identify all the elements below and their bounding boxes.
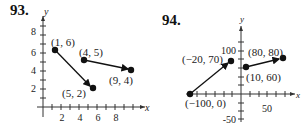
y-axis-label: y <box>43 6 49 17</box>
y-tick-label: 100 <box>221 45 236 56</box>
point-label: (10, 60) <box>246 71 281 84</box>
point-label: (−20, 70) <box>182 53 223 66</box>
x-tick-label: 2 <box>60 112 65 123</box>
x-axis-label: x <box>295 90 300 100</box>
y-tick-label: -50 <box>223 114 236 125</box>
x-tick-label: 8 <box>114 112 119 123</box>
point-label: (4, 5) <box>79 46 103 59</box>
directed-segment <box>84 60 128 69</box>
figure-94: 94. y x 50 100 -50 <box>150 0 307 135</box>
directed-segment <box>190 63 228 94</box>
coordinate-plot-94: y x 50 100 -50 (−100, 0) (−20, 70) (10, … <box>150 0 307 135</box>
point <box>90 85 96 91</box>
x-tick-label: 50 <box>262 103 272 114</box>
point-label: (1, 6) <box>51 36 75 49</box>
y-tick-label: 2 <box>31 83 36 94</box>
point <box>128 67 134 73</box>
x-tick-label: 6 <box>96 112 101 123</box>
point <box>228 58 234 64</box>
point-label: (−100, 0) <box>185 97 226 110</box>
point-label: (5, 2) <box>62 87 86 100</box>
coordinate-plot-93: y x 2 4 6 8 2 4 6 8 (1, 6) (5, 2) (4, 5)… <box>0 0 150 135</box>
y-tick-label: 8 <box>31 26 36 37</box>
y-tick-label: 4 <box>31 65 36 76</box>
y-axis-label: y <box>239 14 244 24</box>
point-label: (9, 4) <box>109 74 133 87</box>
directed-segment <box>246 59 279 67</box>
y-tick-label: 6 <box>31 47 36 58</box>
figure-93: 93. y x 2 4 6 8 2 <box>0 0 150 135</box>
point <box>243 64 249 70</box>
point-label: (80, 80) <box>248 46 283 59</box>
x-tick-label: 4 <box>78 112 83 123</box>
